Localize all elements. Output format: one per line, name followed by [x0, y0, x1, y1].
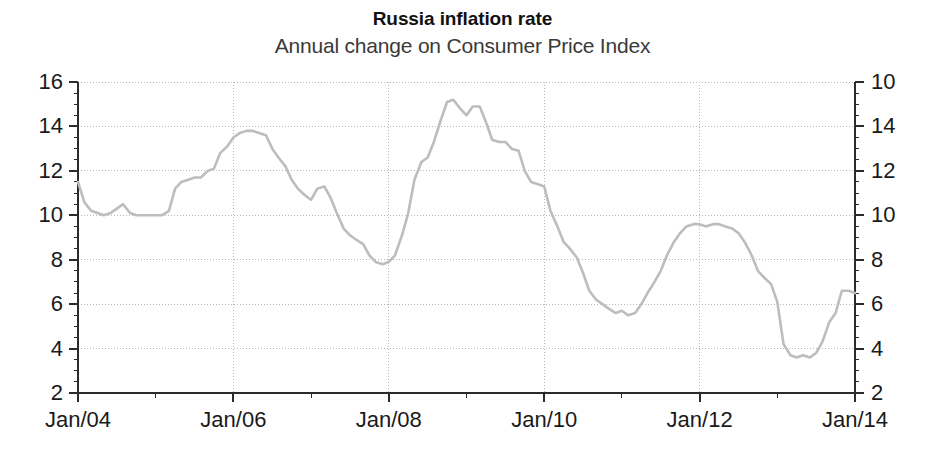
- y-axis-right-tick-label: 12: [871, 158, 895, 184]
- y-axis-right-tick-label: 8: [871, 247, 883, 273]
- x-axis-tick-label: Jan/04: [45, 407, 111, 433]
- y-axis-left-tick-label: 2: [8, 380, 63, 406]
- x-axis-tick-label: Jan/06: [200, 407, 266, 433]
- y-axis-left-tick-label: 16: [8, 69, 63, 95]
- y-axis-left-tick-label: 14: [8, 113, 63, 139]
- axis-lines: [78, 82, 855, 393]
- y-axis-left-tick-label: 12: [8, 158, 63, 184]
- y-axis-left-tick-label: 8: [8, 247, 63, 273]
- y-axis-right-tick-label: 4: [871, 336, 883, 362]
- y-axis-right-tick-label: 10: [871, 69, 895, 95]
- x-axis-tick-label: Jan/08: [356, 407, 422, 433]
- y-axis-right-tick-label: 14: [871, 113, 895, 139]
- y-axis-left-tick-label: 10: [8, 202, 63, 228]
- data-series-line: [78, 100, 855, 358]
- x-axis-tick-label: Jan/14: [822, 407, 888, 433]
- y-axis-left-tick-label: 4: [8, 336, 63, 362]
- y-axis-right-tick-label: 6: [871, 291, 883, 317]
- chart-figure: Russia inflation rate Annual change on C…: [0, 0, 925, 457]
- gridlines: [78, 82, 855, 393]
- series-line-russia-cpi: [78, 100, 855, 358]
- x-axis-tick-label: Jan/10: [511, 407, 577, 433]
- y-axis-left-tick-label: 6: [8, 291, 63, 317]
- x-axis-tick-label: Jan/12: [667, 407, 733, 433]
- y-axis-right-tick-label: 10: [871, 202, 895, 228]
- y-axis-right-tick-label: 2: [871, 380, 883, 406]
- line-chart-plot: [0, 0, 925, 457]
